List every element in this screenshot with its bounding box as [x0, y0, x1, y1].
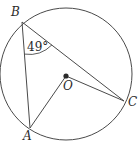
center-point-dot	[63, 73, 68, 78]
circle-geometry-figure: B A C O 49°	[0, 0, 140, 146]
vertex-label-b: B	[11, 6, 20, 18]
vertex-label-a: A	[23, 130, 32, 142]
chord-ba	[22, 22, 30, 128]
radius-oa	[30, 76, 66, 128]
angle-measure-label: 49°	[27, 41, 48, 53]
geometry-canvas	[0, 0, 140, 146]
radius-oc	[66, 76, 124, 101]
vertex-label-c: C	[128, 96, 137, 108]
center-label-o: O	[63, 80, 73, 92]
chord-bc	[22, 22, 124, 101]
